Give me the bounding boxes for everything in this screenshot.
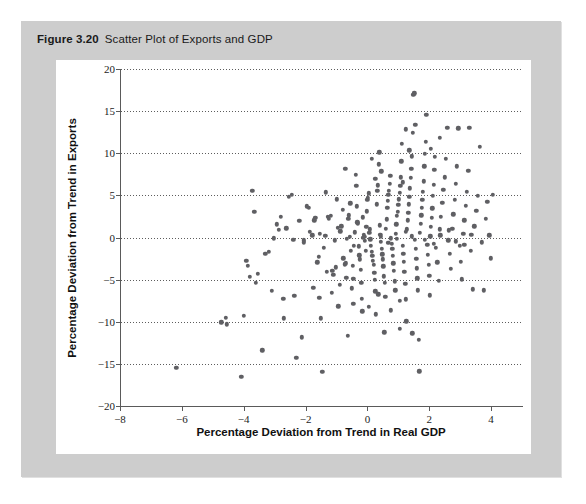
scatter-point <box>379 169 383 173</box>
scatter-point <box>384 217 388 221</box>
scatter-point <box>460 277 464 281</box>
scatter-point <box>476 194 480 198</box>
x-tick-label: −2 <box>300 413 312 425</box>
scatter-point <box>394 232 398 236</box>
scatter-point <box>398 327 402 331</box>
scatter-point <box>335 197 339 201</box>
y-tick-label: 15 <box>104 105 115 117</box>
scatter-point <box>433 155 437 159</box>
scatter-point <box>426 253 430 257</box>
x-tick-mark <box>120 406 121 411</box>
scatter-point <box>398 299 402 303</box>
scatter-point <box>401 180 405 184</box>
scatter-point <box>385 205 389 209</box>
scatter-point <box>427 274 431 278</box>
scatter-point <box>418 221 422 225</box>
scatter-point <box>348 201 352 205</box>
scatter-point <box>316 255 320 259</box>
plot-area: −20−15−10−505101520 −8−6−4−2024 <box>120 69 522 406</box>
scatter-point <box>319 316 323 320</box>
y-tick-label: 20 <box>104 63 115 75</box>
scatter-point <box>413 247 417 251</box>
scatter-point <box>337 283 341 287</box>
scatter-point <box>379 235 383 239</box>
scatter-point <box>373 277 377 281</box>
x-tick-label: 2 <box>426 413 432 425</box>
scatter-point <box>370 157 374 161</box>
scatter-point <box>371 263 375 267</box>
scatter-point <box>465 189 469 193</box>
scatter-point <box>284 226 288 230</box>
scatter-point <box>440 200 444 204</box>
x-tick-mark <box>244 406 245 411</box>
scatter-point <box>267 250 271 254</box>
figure-panel: Figure 3.20Scatter Plot of Exports and G… <box>21 21 561 477</box>
scatter-point <box>260 348 264 352</box>
scatter-point <box>363 248 367 252</box>
scatter-point <box>415 266 419 270</box>
x-tick-mark <box>429 406 430 411</box>
scatter-point <box>374 312 378 316</box>
scatter-point <box>481 288 485 292</box>
scatter-point <box>418 231 422 235</box>
scatter-point <box>434 246 438 250</box>
scatter-point <box>412 91 416 95</box>
scatter-point <box>449 267 453 271</box>
scatter-point <box>301 240 305 244</box>
plot-card: Percentage Deviation from Trend in Expor… <box>56 60 531 454</box>
x-tick-mark <box>182 406 183 411</box>
scatter-point <box>291 237 295 241</box>
scatter-point <box>382 274 386 278</box>
scatter-point <box>417 369 421 373</box>
scatter-point <box>365 209 369 213</box>
scatter-point <box>409 167 413 171</box>
scatter-point <box>439 215 443 219</box>
scatter-point <box>347 213 351 217</box>
scatter-point <box>419 213 423 217</box>
y-tick-mark <box>116 153 120 154</box>
scatter-point <box>367 305 371 309</box>
scatter-point <box>269 288 273 292</box>
scatter-point <box>414 257 418 261</box>
scatter-point <box>425 242 429 246</box>
figure-caption: Figure 3.20Scatter Plot of Exports and G… <box>37 33 273 45</box>
scatter-point <box>469 232 473 236</box>
scatter-point <box>388 308 392 312</box>
scatter-point <box>396 203 400 207</box>
scatter-point <box>402 259 406 263</box>
scatter-point <box>313 215 317 219</box>
gridline <box>121 322 522 323</box>
scatter-point <box>367 231 371 235</box>
scatter-point <box>320 370 324 374</box>
scatter-point <box>366 196 370 200</box>
scatter-point <box>219 320 223 324</box>
scatter-point <box>454 182 458 186</box>
scatter-point <box>348 248 352 252</box>
scatter-point <box>345 237 349 241</box>
scatter-point <box>360 297 364 301</box>
gridline <box>121 69 522 70</box>
scatter-point <box>351 301 355 305</box>
scatter-point <box>324 269 328 273</box>
scatter-point <box>402 269 406 273</box>
scatter-point <box>384 227 388 231</box>
scatter-point <box>452 198 456 202</box>
scatter-point <box>374 202 378 206</box>
scatter-point <box>489 256 493 260</box>
scatter-point <box>423 237 427 241</box>
scatter-point <box>438 135 442 139</box>
y-tick-mark <box>116 280 120 281</box>
scatter-point <box>400 243 404 247</box>
scatter-point <box>395 210 399 214</box>
scatter-point <box>324 190 328 194</box>
scatter-point <box>381 264 385 268</box>
scatter-point <box>429 225 433 229</box>
gridline <box>121 153 522 154</box>
y-tick-label: −5 <box>103 274 115 286</box>
gridline <box>121 238 522 239</box>
scatter-point <box>338 229 342 233</box>
scatter-point <box>404 319 408 323</box>
y-axis-title-text: Percentage Deviation from Trend in Expor… <box>66 118 78 358</box>
scatter-point <box>391 261 395 265</box>
scatter-point <box>416 288 420 292</box>
